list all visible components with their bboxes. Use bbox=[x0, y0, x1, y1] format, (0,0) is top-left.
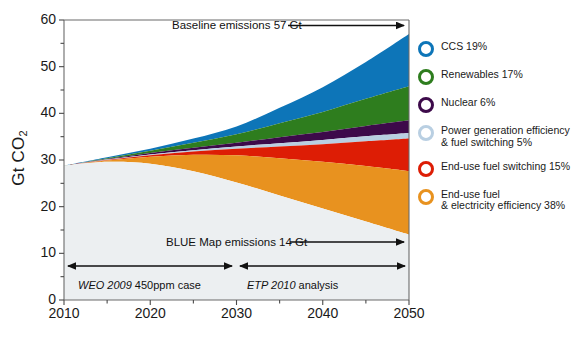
y-axis-tick-label: 50 bbox=[22, 58, 56, 74]
y-axis-tick-label: 60 bbox=[22, 11, 56, 27]
x-axis-tick-label: 2020 bbox=[120, 305, 180, 321]
legend-item-ccs[interactable]: CCS 19% bbox=[418, 40, 580, 57]
legend-label-renewables: Renewables 17% bbox=[441, 68, 523, 81]
legend-marker-nuclear-icon bbox=[418, 97, 434, 113]
legend-marker-ccs-icon bbox=[418, 41, 434, 57]
legend-marker-end-use-fuel-electricity-efficiency-icon bbox=[418, 189, 434, 205]
y-axis-tick-label: 10 bbox=[22, 244, 56, 260]
legend-item-end-use-fuel-electricity-efficiency[interactable]: End-use fuel & electricity efficiency 38… bbox=[418, 188, 580, 213]
legend-label-power-generation-efficiency: Power generation efficiency & fuel switc… bbox=[441, 124, 570, 149]
blue-map-emissions-label: BLUE Map emissions 14 Gt bbox=[166, 236, 307, 248]
legend-item-nuclear[interactable]: Nuclear 6% bbox=[418, 96, 580, 113]
legend-item-renewables[interactable]: Renewables 17% bbox=[418, 68, 580, 85]
legend-label-ccs: CCS 19% bbox=[441, 40, 487, 53]
legend-label-end-use-fuel-switching: End-use fuel switching 15% bbox=[441, 160, 570, 173]
period-label-weo-rest: 450ppm case bbox=[132, 279, 201, 291]
legend-item-end-use-fuel-switching[interactable]: End-use fuel switching 15% bbox=[418, 160, 580, 177]
legend-marker-renewables-icon bbox=[418, 69, 434, 85]
emissions-wedge-chart: Gt CO2 6050403020100 2010202020302040205… bbox=[0, 0, 580, 345]
legend-marker-end-use-fuel-switching-icon bbox=[418, 161, 434, 177]
x-axis-tick-label: 2040 bbox=[293, 305, 353, 321]
period-label-etp-rest: analysis bbox=[296, 279, 339, 291]
period-label-etp-italic: ETP 2010 bbox=[247, 279, 296, 291]
x-axis-tick-label: 2030 bbox=[207, 305, 267, 321]
baseline-emissions-label: Baseline emissions 57 Gt bbox=[172, 19, 302, 31]
x-axis-tick-label: 2010 bbox=[34, 305, 94, 321]
y-axis-title-subscript: 2 bbox=[17, 130, 29, 136]
legend-label-nuclear: Nuclear 6% bbox=[441, 96, 495, 109]
period-label-weo-italic: WEO 2009 bbox=[78, 279, 132, 291]
legend-label-end-use-fuel-electricity-efficiency: End-use fuel & electricity efficiency 38… bbox=[441, 188, 565, 213]
legend-item-power-generation-efficiency[interactable]: Power generation efficiency & fuel switc… bbox=[418, 124, 580, 149]
y-axis-tick-label: 40 bbox=[22, 104, 56, 120]
period-label-etp: ETP 2010 analysis bbox=[247, 279, 338, 291]
legend-marker-power-generation-efficiency-icon bbox=[418, 125, 434, 141]
y-axis-tick-label: 30 bbox=[22, 151, 56, 167]
y-axis-tick-label: 20 bbox=[22, 198, 56, 214]
period-label-weo: WEO 2009 450ppm case bbox=[78, 279, 201, 291]
chart-legend: CCS 19%Renewables 17%Nuclear 6%Power gen… bbox=[418, 40, 580, 223]
x-axis-tick-label: 2050 bbox=[379, 305, 439, 321]
